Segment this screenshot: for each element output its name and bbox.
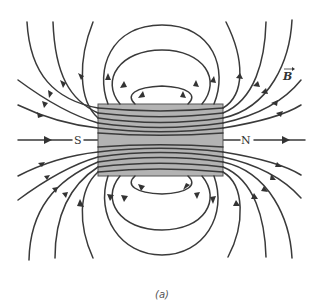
field-label-text: B	[282, 70, 292, 83]
arrow-icon	[44, 136, 52, 144]
figure-caption: (a)	[155, 289, 169, 300]
arrow-icon	[282, 136, 290, 144]
north-pole-label: N	[241, 134, 251, 147]
vector-arrow-icon	[292, 67, 295, 71]
field-vector-label: B	[282, 67, 295, 83]
right-fan-lines	[223, 20, 301, 258]
south-pole-label: S	[74, 134, 82, 147]
left-fan-lines	[18, 22, 98, 260]
bar-magnet-field-diagram: S N B (a)	[0, 0, 324, 303]
bottom-loops	[105, 176, 218, 255]
top-loops	[104, 25, 220, 104]
